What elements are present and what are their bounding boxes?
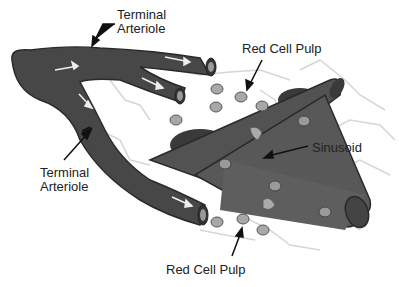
label-line: Terminal [40, 166, 89, 180]
label-red-cell-pulp-top: Red Cell Pulp [242, 42, 322, 56]
label-sinusoid: Sinusoid [312, 141, 362, 155]
label-terminal-arteriole-left: Terminal Arteriole [40, 166, 89, 194]
label-text: Red Cell Pulp [166, 262, 246, 277]
label-red-cell-pulp-bottom: Red Cell Pulp [166, 263, 246, 277]
label-terminal-arteriole-top: Terminal Arteriole [117, 8, 166, 36]
diagram-canvas: Terminal Arteriole Red Cell Pulp Sinusoi… [0, 0, 399, 287]
label-line: Arteriole [117, 22, 166, 36]
label-text: Sinusoid [312, 140, 362, 155]
label-line: Terminal [117, 8, 166, 22]
label-line: Arteriole [40, 180, 89, 194]
label-text: Red Cell Pulp [242, 41, 322, 56]
